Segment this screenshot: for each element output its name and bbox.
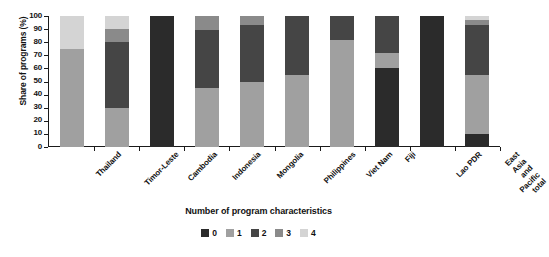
- y-tick-mark: [44, 82, 48, 83]
- stacked-bar[interactable]: [60, 16, 84, 147]
- legend-item[interactable]: 4: [300, 229, 316, 238]
- bar-segment[interactable]: [330, 16, 354, 40]
- y-tick-mark: [44, 16, 48, 17]
- bar-group[interactable]: [184, 16, 229, 147]
- legend-item[interactable]: 3: [275, 229, 291, 238]
- x-axis-title: Number of program characteristics: [0, 206, 517, 216]
- bar-group[interactable]: [365, 16, 410, 147]
- y-tick-mark: [44, 134, 48, 135]
- x-category-label: Viet Nam: [365, 150, 395, 180]
- x-category-label: Timor-Leste: [143, 150, 181, 188]
- bar-segment[interactable]: [150, 16, 174, 147]
- bar-segment[interactable]: [240, 16, 264, 25]
- bar-segment[interactable]: [375, 16, 399, 53]
- bar-segment[interactable]: [60, 49, 84, 147]
- y-tick-mark: [44, 29, 48, 30]
- bar-segment[interactable]: [465, 134, 489, 147]
- bar-segment[interactable]: [195, 16, 219, 30]
- x-category-label: Thailand: [94, 150, 123, 179]
- bar-group[interactable]: [455, 16, 500, 147]
- y-tick-label: 40: [20, 89, 42, 98]
- legend-swatch: [201, 229, 209, 237]
- legend-item[interactable]: 0: [201, 229, 217, 238]
- bar-segment[interactable]: [465, 16, 489, 20]
- bar-group[interactable]: [275, 16, 320, 147]
- legend-label: 0: [212, 229, 217, 238]
- stacked-bar[interactable]: [375, 16, 399, 147]
- bar-group[interactable]: [49, 16, 94, 147]
- bars-layer: [49, 16, 500, 147]
- legend-label: 2: [262, 229, 267, 238]
- bar-segment[interactable]: [60, 16, 84, 49]
- x-category-label: Indonesia: [230, 150, 262, 182]
- y-tick-label: 0: [20, 142, 42, 151]
- y-tick-label: 10: [20, 128, 42, 137]
- legend-item[interactable]: 2: [251, 229, 267, 238]
- bar-segment[interactable]: [240, 25, 264, 81]
- bar-segment[interactable]: [195, 30, 219, 88]
- y-tick-label: 90: [20, 24, 42, 33]
- bar-segment[interactable]: [105, 29, 129, 42]
- bar-segment[interactable]: [420, 16, 444, 147]
- legend-swatch: [275, 229, 283, 237]
- bar-segment[interactable]: [240, 82, 264, 148]
- bar-group[interactable]: [139, 16, 184, 147]
- bar-segment[interactable]: [375, 68, 399, 147]
- x-category-label: Philippines: [322, 150, 358, 186]
- legend-label: 3: [286, 229, 291, 238]
- bar-group[interactable]: [410, 16, 455, 147]
- bar-segment[interactable]: [330, 40, 354, 147]
- stacked-bar[interactable]: [465, 16, 489, 147]
- legend-swatch: [300, 229, 308, 237]
- stacked-bar[interactable]: [150, 16, 174, 147]
- y-tick-label: 70: [20, 50, 42, 59]
- bar-segment[interactable]: [105, 16, 129, 29]
- stacked-bar[interactable]: [285, 16, 309, 147]
- x-category-label: East Asia and Pacific total: [498, 150, 549, 201]
- y-tick-mark: [44, 108, 48, 109]
- stacked-bar[interactable]: [330, 16, 354, 147]
- legend-label: 1: [237, 229, 242, 238]
- bar-group[interactable]: [320, 16, 365, 147]
- y-tick-label: 30: [20, 102, 42, 111]
- stacked-bar[interactable]: [420, 16, 444, 147]
- y-tick-mark: [44, 68, 48, 69]
- y-tick-label: 20: [20, 115, 42, 124]
- legend-item[interactable]: 1: [226, 229, 242, 238]
- bar-segment[interactable]: [285, 16, 309, 75]
- y-tick-label: 60: [20, 63, 42, 72]
- x-tick-mark: [500, 147, 501, 151]
- y-tick-mark: [44, 42, 48, 43]
- y-tick-mark: [44, 55, 48, 56]
- chart-legend: 01234: [0, 229, 517, 238]
- legend-label: 4: [311, 229, 316, 238]
- bar-group[interactable]: [229, 16, 274, 147]
- y-tick-mark: [44, 95, 48, 96]
- legend-swatch: [251, 229, 259, 237]
- bar-segment[interactable]: [465, 20, 489, 25]
- stacked-bar[interactable]: [105, 16, 129, 147]
- y-tick-mark: [44, 147, 48, 148]
- bar-segment[interactable]: [285, 75, 309, 147]
- y-tick-label: 50: [20, 76, 42, 85]
- bar-segment[interactable]: [375, 53, 399, 69]
- y-tick-label: 80: [20, 37, 42, 46]
- bar-segment[interactable]: [465, 75, 489, 134]
- legend-swatch: [226, 229, 234, 237]
- bar-segment[interactable]: [105, 108, 129, 147]
- x-axis-category-labels: ThailandTimor-LesteCambodiaIndonesiaMong…: [48, 150, 500, 202]
- plot-area: 0102030405060708090100: [48, 16, 500, 147]
- bar-group[interactable]: [94, 16, 139, 147]
- bar-segment[interactable]: [465, 25, 489, 75]
- x-category-label: Cambodia: [186, 150, 219, 183]
- bar-segment[interactable]: [195, 88, 219, 147]
- x-category-label: Fiji: [403, 150, 417, 164]
- x-category-label: Lao PDR: [455, 150, 485, 180]
- stacked-bar[interactable]: [195, 16, 219, 147]
- y-tick-mark: [44, 121, 48, 122]
- y-tick-label: 100: [20, 11, 42, 20]
- bar-segment[interactable]: [105, 42, 129, 108]
- x-category-label: Mongolia: [275, 150, 306, 181]
- stacked-bar[interactable]: [240, 16, 264, 147]
